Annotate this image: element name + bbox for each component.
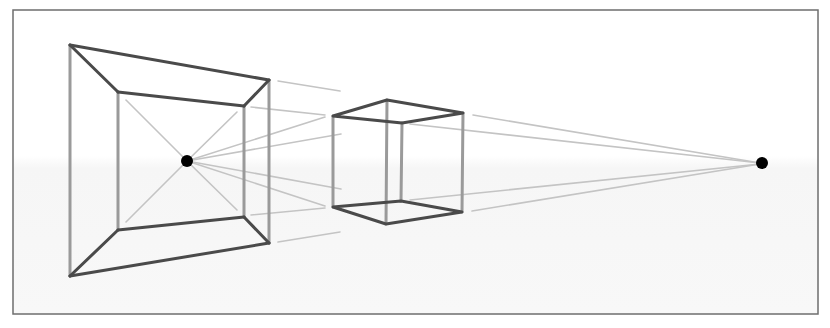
diagram-canvas	[0, 0, 830, 328]
cube-vertical-edge	[386, 100, 387, 224]
left-vanishing-point	[181, 155, 193, 167]
right-vanishing-point	[756, 157, 768, 169]
cube-vertical-edge	[401, 123, 402, 201]
perspective-diagram	[0, 0, 830, 328]
cube-vertical-edge	[462, 113, 463, 212]
